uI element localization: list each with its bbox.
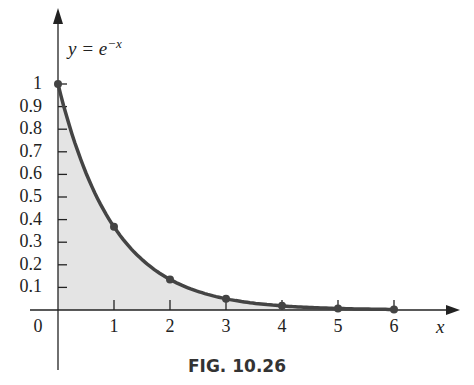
y-tick-label: 0.8 [2, 118, 42, 139]
y-tick-label: 0.9 [2, 96, 42, 117]
data-point [278, 302, 286, 310]
y-tick-label: 0.6 [2, 163, 42, 184]
x-tick-label: 1 [104, 316, 124, 337]
y-tick-label: 0.3 [2, 231, 42, 252]
data-point [54, 80, 62, 88]
data-point [222, 295, 230, 303]
data-point [110, 223, 118, 231]
x-tick-label: 0 [28, 316, 48, 337]
equation-label: y = e−x [68, 36, 122, 60]
y-tick-label: 0.5 [2, 186, 42, 207]
x-tick-label: 2 [160, 316, 180, 337]
shaded-area [58, 84, 397, 310]
x-tick-label: 3 [216, 316, 236, 337]
x-axis-arrow-icon [446, 305, 460, 315]
data-point [390, 305, 398, 313]
x-tick-label: 5 [328, 316, 348, 337]
data-point [166, 275, 174, 283]
x-axis-label: x [436, 316, 444, 338]
x-tick-label: 6 [384, 316, 404, 337]
data-point [334, 304, 342, 312]
y-tick-label: 0.7 [2, 141, 42, 162]
y-tick-label: 1 [2, 73, 42, 94]
y-tick-label: 0.1 [2, 276, 42, 297]
x-tick-label: 4 [272, 316, 292, 337]
figure-caption: FIG. 10.26 [0, 356, 474, 376]
y-axis-arrow-icon [53, 8, 63, 24]
y-tick-label: 0.4 [2, 209, 42, 230]
y-tick-label: 0.2 [2, 254, 42, 275]
